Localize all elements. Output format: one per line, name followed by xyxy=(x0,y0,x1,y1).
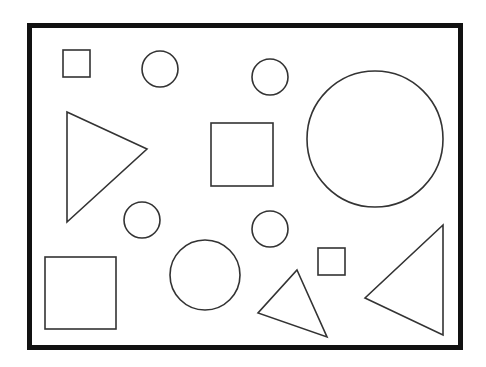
triangle-bottom-right xyxy=(365,225,443,335)
circle-middle-left xyxy=(124,202,160,238)
circle-middle-right xyxy=(252,211,288,247)
small-square-bottom-right xyxy=(318,248,345,275)
triangles-group xyxy=(67,112,443,337)
triangle-left xyxy=(67,112,147,222)
squares-group xyxy=(45,50,345,329)
large-square-bottom-left xyxy=(45,257,116,329)
large-circle-right xyxy=(307,71,443,207)
triangle-bottom-center xyxy=(258,270,327,337)
circle-bottom-center xyxy=(170,240,240,310)
circle-top-left xyxy=(142,51,178,87)
circle-top-center xyxy=(252,59,288,95)
circles-group xyxy=(124,51,443,310)
medium-square-center xyxy=(211,123,273,186)
small-square-top-left xyxy=(63,50,90,77)
shapes-drawing xyxy=(0,0,486,367)
shapes-worksheet xyxy=(0,0,486,367)
